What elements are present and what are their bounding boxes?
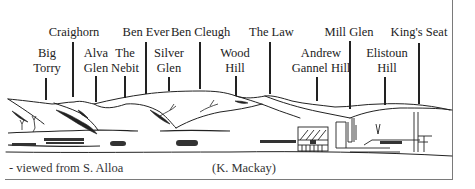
caption-author-credit: (K. Mackay) [212, 161, 276, 176]
caption-viewpoint: - viewed from S. Alloa [9, 161, 123, 176]
